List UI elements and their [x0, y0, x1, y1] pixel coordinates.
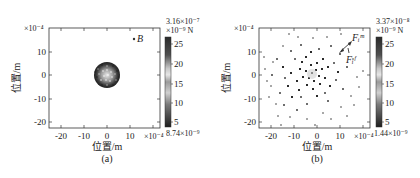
x-tick-label: 0: [315, 131, 320, 141]
y-axis-label: 位置/m: [10, 63, 22, 94]
x-tick-label: 0: [105, 131, 110, 141]
panel-b: -20 -10 0 10 ×10⁻⁴ 10 0 -10 -20 ×10⁻⁴ 位置…: [220, 17, 410, 165]
y-tick-label: -20: [34, 117, 46, 127]
colorbar-tick-label: 20: [174, 59, 184, 69]
x-axis-label: 位置/m: [302, 140, 333, 152]
y-tick-label: 10: [37, 47, 47, 57]
force-fm-label: Fᵢᵐ: [351, 32, 365, 43]
x-tick-label: -10: [288, 131, 300, 141]
panel-a: -20 -10 0 10 ×10⁻⁴ 10 0 -10 -20 ×10⁻⁴ 位置…: [10, 17, 200, 165]
x-tick-label: -20: [265, 131, 277, 141]
panel-caption: (b): [311, 153, 323, 165]
colorbar-tick-label: 15: [385, 79, 395, 89]
point-b: [133, 38, 135, 40]
colorbar-tick-label: 25: [174, 39, 184, 49]
x-tick-label: -10: [78, 131, 90, 141]
y-tick-label: -20: [244, 117, 256, 127]
colorbar-min-label: 8.74×10⁻⁹: [166, 129, 200, 138]
colorbar-tick-label: 20: [385, 59, 395, 69]
x-scale-label: ×10⁻⁴: [354, 132, 374, 141]
y-axis-label: 位置/m: [220, 63, 232, 94]
colorbar-tick-label: 15: [174, 79, 184, 89]
y-scale-label: ×10⁻⁴: [24, 24, 44, 33]
y-tick-label: 10: [247, 47, 257, 57]
y-tick-label: -10: [244, 94, 256, 104]
colorbar-max-label: 3.37×10⁻⁸: [376, 17, 410, 26]
colorbar-tick-label: 5: [174, 117, 179, 127]
x-axis-label: 位置/m: [92, 140, 123, 152]
colorbar-tick-label: 5: [385, 117, 390, 127]
panel-caption: (a): [101, 153, 112, 165]
colorbar-tick-label: 10: [174, 98, 184, 108]
x-tick-label: -20: [55, 131, 67, 141]
y-tick-label: 0: [42, 70, 47, 80]
colorbar-min-label: 1.44×10⁻⁹: [374, 129, 408, 138]
point-b-label: B: [137, 33, 143, 44]
colorbar-ticks-b: [382, 44, 384, 122]
colorbar-unit-label: ×10⁻⁹ N: [166, 26, 194, 35]
x-tick-label: 10: [336, 131, 346, 141]
colorbar-a: [165, 37, 171, 127]
y-tick-label: 0: [252, 70, 257, 80]
particle-cluster-a: [94, 62, 120, 88]
colorbar-tick-label: 25: [385, 39, 395, 49]
y-scale-label: ×10⁻⁴: [234, 24, 254, 33]
figure: -20 -10 0 10 ×10⁻⁴ 10 0 -10 -20 ×10⁻⁴ 位置…: [0, 0, 420, 178]
x-scale-label: ×10⁻⁴: [144, 132, 164, 141]
y-tick-label: -10: [34, 94, 46, 104]
x-tick-label: 10: [126, 131, 136, 141]
colorbar-max-label: 3.16×10⁻⁷: [166, 17, 200, 26]
colorbar-ticks-a: [171, 44, 173, 122]
colorbar-unit-label: ×10⁻⁹ N: [376, 26, 404, 35]
colorbar-tick-label: 10: [385, 98, 395, 108]
colorbar-b: [376, 37, 382, 127]
